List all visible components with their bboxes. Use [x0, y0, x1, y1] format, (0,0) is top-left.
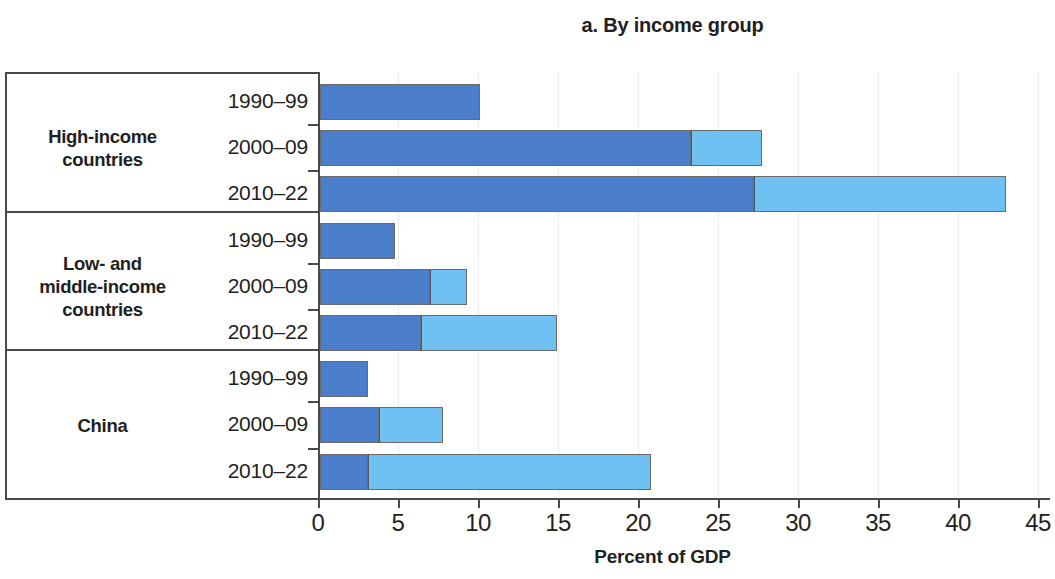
x-axis-title: Percent of GDP	[0, 546, 1055, 568]
row-tick	[308, 309, 319, 311]
bar-segment-series-1	[320, 130, 691, 166]
period-label: 2010–22	[138, 458, 318, 484]
gridline	[1038, 72, 1039, 498]
bar-segment-series-1	[320, 269, 430, 305]
x-axis-tick	[878, 498, 880, 508]
bar-row	[320, 454, 651, 490]
row-tick	[308, 263, 319, 265]
chart-figure: a. By income group High-incomecountriesL…	[0, 0, 1055, 579]
bar-row	[320, 130, 762, 166]
bar-row	[320, 269, 467, 305]
bar-segment-series-2	[379, 407, 443, 443]
bar-segment-series-2	[691, 130, 761, 166]
x-axis-tick	[638, 498, 640, 508]
bar-segment-series-2	[421, 315, 557, 351]
x-axis-line	[5, 498, 1050, 500]
x-axis-tick-label: 45	[1008, 509, 1055, 537]
x-axis-tick-label: 25	[688, 509, 748, 537]
x-axis-tick-label: 35	[848, 509, 908, 537]
bar-segment-series-1	[320, 176, 754, 212]
bar-segment-series-1	[320, 407, 379, 443]
bar-row	[320, 176, 1006, 212]
x-axis-tick-label: 20	[608, 509, 668, 537]
bar-segment-series-1	[320, 454, 368, 490]
bar-row	[320, 223, 395, 259]
x-axis-tick	[398, 498, 400, 508]
x-axis-tick-label: 5	[368, 509, 428, 537]
bar-row	[320, 315, 557, 351]
group-separator	[5, 72, 319, 74]
gridline	[958, 72, 959, 498]
x-axis-tick-label: 10	[448, 509, 508, 537]
period-label: 2000–09	[138, 411, 318, 437]
row-tick	[308, 170, 319, 172]
bar-row	[320, 361, 368, 397]
x-axis-tick-label: 40	[928, 509, 988, 537]
bar-segment-series-2	[430, 269, 467, 305]
bar-segment-series-1	[320, 84, 480, 120]
x-axis-tick-label: 15	[528, 509, 588, 537]
period-label: 1990–99	[138, 88, 318, 114]
x-axis-tick	[558, 498, 560, 508]
period-label: 2000–09	[138, 273, 318, 299]
x-axis-tick	[478, 498, 480, 508]
period-label: 1990–99	[138, 227, 318, 253]
x-axis-tick-label: 0	[288, 509, 348, 537]
row-tick	[308, 124, 319, 126]
bar-segment-series-2	[368, 454, 651, 490]
x-axis-tick	[318, 498, 320, 508]
x-axis-tick	[718, 498, 720, 508]
group-label-line: countries	[5, 298, 200, 321]
x-axis-tick	[958, 498, 960, 508]
period-label: 2010–22	[138, 180, 318, 206]
period-label: 1990–99	[138, 365, 318, 391]
bar-segment-series-1	[320, 361, 368, 397]
period-label: 2000–09	[138, 134, 318, 160]
bar-row	[320, 84, 480, 120]
x-axis-tick-label: 30	[768, 509, 828, 537]
chart-title: a. By income group	[0, 14, 1055, 37]
bar-segment-series-1	[320, 315, 421, 351]
period-label: 2010–22	[138, 319, 318, 345]
bar-segment-series-1	[320, 223, 395, 259]
bar-segment-series-2	[754, 176, 1007, 212]
bar-row	[320, 407, 443, 443]
chart-plot-frame: High-incomecountriesLow- andmiddle-incom…	[5, 72, 1050, 498]
gridline	[798, 72, 799, 498]
x-axis-tick	[1038, 498, 1040, 508]
group-separator	[5, 349, 319, 351]
group-separator	[5, 211, 319, 213]
row-tick	[308, 448, 319, 450]
x-axis-tick	[798, 498, 800, 508]
row-tick	[308, 401, 319, 403]
gridline	[878, 72, 879, 498]
